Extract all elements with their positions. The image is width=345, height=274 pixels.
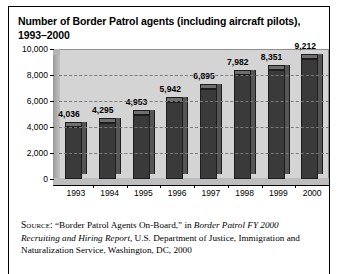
gridline [59,127,329,128]
y-axis: 02,0004,0006,0008,00010,000 [9,49,51,185]
bar-top-face [99,118,116,123]
x-tick-label: 1994 [93,188,127,198]
bar-front-face [268,70,285,179]
gridline [59,75,329,76]
x-tick-mark [262,185,263,188]
bar-front-face [166,102,183,179]
bar-front-face [133,115,150,179]
bar-side-face [217,84,222,174]
bar-front-face [200,89,217,179]
bar [301,59,318,179]
x-tick-label: 1993 [59,188,93,198]
y-tick-mark [50,49,54,50]
x-axis: 19931994199519961997199819992000 [59,188,329,202]
bar-side-face [318,54,323,174]
x-tick-mark [127,185,128,188]
bar-side-face [285,65,290,174]
bar-chart: 02,0004,0006,0008,00010,000 4,0364,2954,… [9,49,330,207]
bar [200,89,217,179]
bar-front-face [99,123,116,179]
bar-top-face [301,54,318,59]
bar [166,102,183,179]
bars-layer: 4,0364,2954,9535,9426,8957,9828,3519,212 [59,49,329,179]
bar-group: 4,295 [93,49,127,179]
source-note: Source: “Border Patrol Agents On-Board,”… [21,219,319,257]
x-tick-mark [93,185,94,188]
x-tick-mark [194,185,195,188]
page-title: Number of Border Patrol agents (includin… [18,15,318,42]
y-tick-label: 0 [43,174,48,184]
y-tick-mark [50,127,54,128]
bar-side-face [251,70,256,174]
x-tick-mark [329,185,330,188]
x-tick-mark [228,185,229,188]
y-tick-mark [50,75,54,76]
bar-value-label: 4,295 [86,105,120,115]
bar-side-face [150,110,155,174]
bar-group: 8,351 [262,49,296,179]
bar-group: 7,982 [228,49,262,179]
y-tick-mark [50,153,54,154]
y-tick-label: 2,000 [27,148,48,158]
x-tick-mark [295,185,296,188]
bar-value-label: 7,982 [221,57,255,67]
bar [99,123,116,179]
x-tick-mark [160,185,161,188]
bar-side-face [82,122,87,174]
bar-value-label: 8,351 [255,52,289,62]
y-tick-mark [50,101,54,102]
figure-frame: Number of Border Patrol agents (includin… [8,6,330,274]
source-text-part1: “Border Patrol Agents On-Board,” in [53,220,194,230]
bar-top-face [133,110,150,115]
plot-floor [53,178,329,185]
bar [133,115,150,179]
y-tick-label: 6,000 [27,96,48,106]
bar-value-label: 6,895 [187,71,221,81]
x-tick-label: 1995 [127,188,161,198]
bar-top-face [200,84,217,89]
gridline [59,101,329,102]
bar-group: 6,895 [194,49,228,179]
y-tick-label: 10,000 [22,44,48,54]
x-axis-line [53,185,330,186]
plot-panel: 4,0364,2954,9535,9426,8957,9828,3519,212 [53,49,329,185]
gridline [59,153,329,154]
bar-group: 4,953 [127,49,161,179]
y-tick-mark [50,179,54,180]
x-tick-label: 1996 [160,188,194,198]
bar-group: 5,942 [160,49,194,179]
bar-front-face [301,59,318,179]
bar [268,70,285,179]
source-label: Source: [21,219,53,230]
x-tick-label: 2000 [295,188,329,198]
y-tick-label: 8,000 [27,70,48,80]
x-tick-label: 1997 [194,188,228,198]
y-tick-label: 4,000 [27,122,48,132]
x-tick-label: 1999 [262,188,296,198]
bar-value-label: 9,212 [288,41,322,51]
bar-side-face [183,97,188,174]
bar-top-face [268,65,285,70]
x-tick-label: 1998 [228,188,262,198]
bar-value-label: 5,942 [153,84,187,94]
bar-group: 9,212 [295,49,329,179]
bar-top-face [65,122,82,127]
bar-value-label: 4,036 [52,109,86,119]
